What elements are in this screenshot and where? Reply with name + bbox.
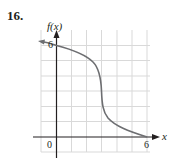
x-axis-label: x [161,130,167,142]
y-axis [54,30,60,158]
x-axis-arrow-icon [152,134,160,140]
grid [41,30,150,152]
origin-label: 0 [47,139,52,150]
x-tick-6-label: 6 [144,139,149,150]
y-axis-label: f(x) [47,20,63,33]
function-graph: f(x) x 0 6 6 [0,0,174,165]
y-tick-6-label: 6 [48,39,53,50]
